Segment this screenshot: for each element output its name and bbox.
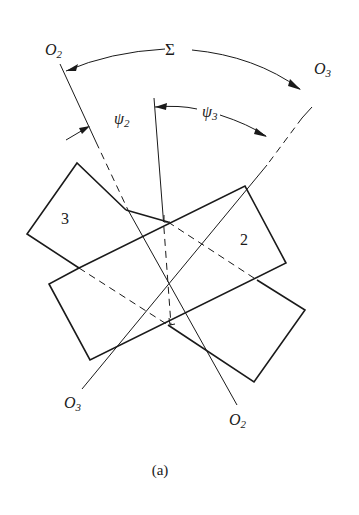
psi2-arrow (66, 126, 90, 140)
arrow-head-icon (254, 128, 267, 137)
o3-top-label: O3 (314, 60, 332, 79)
sigma-arc (66, 49, 301, 90)
arrow-head-icon (79, 126, 90, 134)
psi2-label: ψ2 (114, 110, 130, 129)
gear-2-label: 2 (240, 231, 248, 248)
o2-top-label: O2 (45, 41, 63, 60)
gear-3-label: 3 (61, 210, 69, 227)
arrow-head-icon (155, 103, 167, 110)
crossed-helical-gears-diagram: Σ O2 O3 ψ2 ψ3 3 2 O3 O2 (a) (0, 0, 359, 515)
o2-bottom-label: O2 (229, 411, 247, 430)
sigma-label: Σ (165, 40, 175, 59)
gear-2-outline (49, 186, 286, 360)
arrow-head-right-icon (288, 79, 301, 90)
o3-bottom-label: O3 (64, 394, 82, 413)
figure-caption: (a) (152, 462, 169, 479)
right-angle-marks (164, 215, 175, 325)
psi3-label: ψ3 (202, 103, 218, 122)
gear-3-outline (27, 163, 305, 382)
